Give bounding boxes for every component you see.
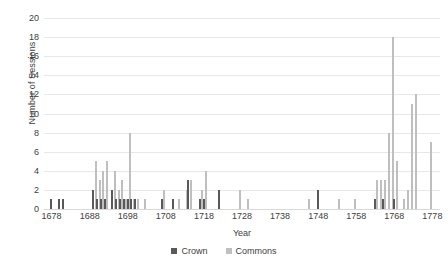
- bar-crown-1694: [111, 190, 113, 209]
- x-tick-label: 1718: [194, 211, 214, 221]
- y-tick-label: 2: [34, 185, 39, 195]
- bar-crown-1718: [203, 199, 205, 209]
- bar-crown-1717: [199, 199, 201, 209]
- y-tick-label: 6: [34, 147, 39, 157]
- legend-item-crown[interactable]: Crown: [171, 246, 207, 256]
- bar-commons-1763: [376, 180, 378, 209]
- gridline-y-10: [44, 114, 440, 115]
- legend-swatch-icon: [226, 248, 232, 254]
- bar-crown-1696: [119, 199, 121, 209]
- bar-crown-1700: [134, 199, 136, 209]
- bar-commons-1777: [430, 142, 432, 209]
- legend-label: Crown: [181, 246, 207, 256]
- bar-crown-1695: [115, 199, 117, 209]
- bar-commons-1766: [388, 133, 390, 209]
- bar-crown-1768: [393, 199, 395, 209]
- bar-commons-1700: [137, 199, 139, 209]
- x-axis-title: Year: [44, 228, 440, 238]
- chart-figure: Number of Sessions 02468101214161820 167…: [0, 0, 448, 268]
- x-tick-label: 1748: [308, 211, 328, 221]
- bar-commons-1771: [407, 190, 409, 209]
- bar-commons-1714: [190, 180, 192, 209]
- bar-commons-1729: [247, 199, 249, 209]
- x-tick-label: 1708: [156, 211, 176, 221]
- y-tick-label: 8: [34, 128, 39, 138]
- bar-crown-1692: [104, 199, 106, 209]
- bar-crown-1681: [62, 199, 64, 209]
- bar-commons-1745: [308, 199, 310, 209]
- bar-commons-1692: [106, 161, 108, 209]
- bar-crown-1765: [382, 199, 384, 209]
- bar-commons-1772: [411, 104, 413, 209]
- bar-crown-1691: [100, 199, 102, 209]
- gridline-y-16: [44, 56, 440, 57]
- bar-commons-1707: [163, 190, 165, 209]
- bar-crown-1707: [161, 199, 163, 209]
- x-tick-label: 1738: [270, 211, 290, 221]
- x-tick-label: 1768: [384, 211, 404, 221]
- bar-crown-1678: [50, 199, 52, 209]
- gridline-y-8: [44, 133, 440, 134]
- bar-commons-1767: [392, 37, 394, 209]
- bar-crown-1763: [374, 199, 376, 209]
- bar-commons-1698: [129, 133, 131, 209]
- gridline-y-20: [44, 18, 440, 19]
- gridline-y-14: [44, 75, 440, 76]
- plot-area: 02468101214161820: [44, 18, 440, 209]
- bar-crown-1714: [187, 180, 189, 209]
- bar-commons-1718: [205, 171, 207, 209]
- bar-commons-1753: [338, 199, 340, 209]
- bar-commons-1757: [354, 199, 356, 209]
- y-tick-label: 16: [29, 51, 39, 61]
- x-tick-label: 1688: [80, 211, 100, 221]
- legend-item-commons[interactable]: Commons: [226, 246, 277, 256]
- bar-commons-1711: [178, 199, 180, 209]
- x-tick-label: 1758: [346, 211, 366, 221]
- y-axis-title: Number of Sessions: [27, 3, 37, 163]
- y-tick-label: 14: [29, 70, 39, 80]
- bar-crown-1680: [58, 199, 60, 209]
- y-tick-label: 10: [29, 109, 39, 119]
- bar-crown-1710: [172, 199, 174, 209]
- bar-crown-1690: [96, 199, 98, 209]
- gridline-y-18: [44, 37, 440, 38]
- chart-legend: CrownCommons: [0, 246, 448, 256]
- y-tick-label: 4: [34, 166, 39, 176]
- y-tick-label: 0: [34, 204, 39, 214]
- bar-commons-1768: [396, 161, 398, 209]
- bar-crown-1748: [317, 190, 319, 209]
- y-tick-label: 20: [29, 13, 39, 23]
- x-tick-label: 1728: [232, 211, 252, 221]
- bar-commons-1773: [415, 94, 417, 209]
- legend-label: Commons: [236, 246, 277, 256]
- bar-crown-1722: [218, 190, 220, 209]
- legend-swatch-icon: [171, 248, 177, 254]
- bar-commons-1765: [384, 180, 386, 209]
- bar-crown-1689: [92, 190, 94, 209]
- y-tick-label: 18: [29, 32, 39, 42]
- x-axis-ticks: 1678168816981708171817281738174817581768…: [44, 209, 440, 229]
- bar-crown-1697: [123, 199, 125, 209]
- bar-commons-1770: [403, 199, 405, 209]
- x-tick-label: 1698: [118, 211, 138, 221]
- x-tick-label: 1778: [422, 211, 442, 221]
- y-tick-label: 12: [29, 89, 39, 99]
- bar-commons-1702: [144, 199, 146, 209]
- bar-crown-1698: [127, 199, 129, 209]
- gridline-y-6: [44, 152, 440, 153]
- gridline-y-12: [44, 94, 440, 95]
- x-tick-label: 1678: [42, 211, 62, 221]
- bar-commons-1727: [239, 190, 241, 209]
- bar-crown-1699: [130, 199, 132, 209]
